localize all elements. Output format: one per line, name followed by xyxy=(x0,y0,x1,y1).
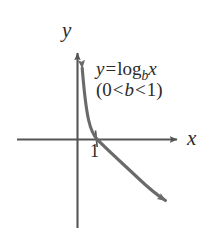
equation-equals-sign: = xyxy=(104,58,117,79)
condition-base-b: b xyxy=(125,79,135,100)
y-axis-label: y xyxy=(62,20,71,41)
equation-argument-x: x xyxy=(148,58,156,79)
x-axis-label: x xyxy=(187,128,196,149)
condition-less-than-second: < xyxy=(134,79,147,100)
x-tick-label-1: 1 xyxy=(90,142,99,160)
equation-line-1: y=logbx xyxy=(96,58,163,79)
condition-upper-bound: 1 xyxy=(147,79,157,100)
condition-close-paren: ) xyxy=(156,79,162,100)
equation-line-2: (0<b<1) xyxy=(96,79,163,100)
condition-lower-bound: 0 xyxy=(102,79,112,100)
plot-canvas xyxy=(0,0,212,234)
equation-annotation: y=logbx (0<b<1) xyxy=(96,58,163,101)
condition-less-than-first: < xyxy=(112,79,125,100)
logarithm-graph-figure: y x 1 y=logbx (0<b<1) xyxy=(0,0,212,234)
equation-log-operator: log xyxy=(117,58,141,79)
